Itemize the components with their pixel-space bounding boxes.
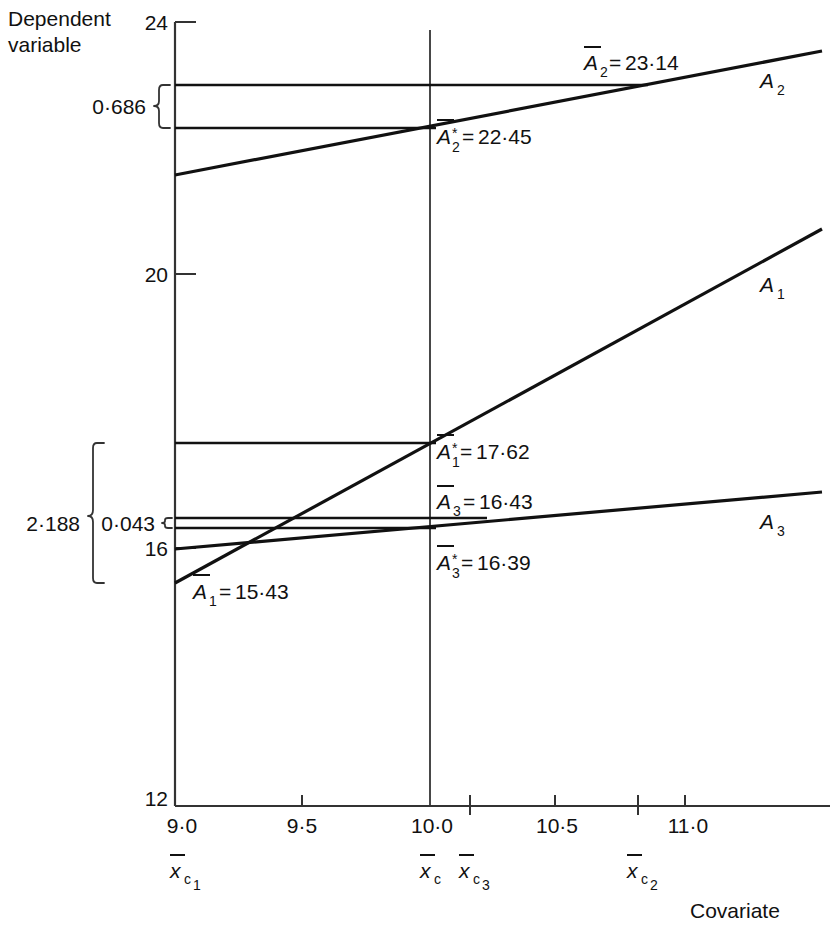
chart-svg: Dependent variable 24 20 16 12 9·0 9·5 1… (0, 0, 836, 928)
xbar-sub-index-3: 3 (482, 877, 490, 893)
series-label-a2-sub: 2 (777, 82, 785, 98)
a2-star-value: 22·45 (478, 125, 532, 148)
a3-star-equals: = (461, 551, 473, 574)
y-tick-label-24: 24 (145, 11, 169, 34)
a3-star-value: 16·39 (477, 551, 531, 574)
a1-bar-sub: 1 (209, 593, 217, 609)
x-tick-label-9-0: 9·0 (167, 814, 197, 837)
chart-background (0, 0, 836, 928)
xbar-letter-1: x (169, 859, 182, 882)
x-tick-label-11-0: 11·0 (668, 814, 708, 837)
xbar-sub-c-2: c (434, 871, 441, 887)
y-tick-label-12: 12 (145, 787, 168, 810)
a3-bar-equals: = (463, 490, 475, 513)
xbar-sub-c-1: c (184, 871, 191, 887)
a2-bar-sub: 2 (600, 64, 608, 80)
y-axis-title-line2: variable (8, 33, 82, 56)
a3-star-letter: A (435, 551, 451, 574)
xbar-letter-3: x (458, 859, 471, 882)
series-label-a3-letter: A (758, 510, 774, 533)
a2-star-letter: A (435, 125, 451, 148)
xbar-sub-c-3: c (473, 871, 480, 887)
a1-star-letter: A (435, 440, 451, 463)
series-label-a3-sub: 3 (777, 523, 785, 539)
x-tick-label-10-5: 10·5 (536, 814, 578, 837)
a3-bar-letter: A (435, 490, 451, 513)
x-axis-title: Covariate (690, 899, 780, 922)
a1-star-sub: 1 (452, 454, 460, 470)
xbar-letter-4: x (626, 859, 639, 882)
xbar-sub-index-1: 1 (193, 877, 201, 893)
y-axis-title-line1: Dependent (8, 7, 111, 30)
a1-bar-equals: = (219, 580, 231, 603)
y-tick-label-16: 16 (145, 537, 168, 560)
a3-star-sub: 3 (452, 565, 460, 581)
a3-bar-sub: 3 (453, 503, 461, 519)
brace-2188-label: 2·188 (26, 512, 80, 535)
xbar-letter-2: x (419, 859, 432, 882)
a2-star-sub: 2 (452, 139, 460, 155)
brace-0043-label: 0·043 (101, 512, 155, 535)
y-tick-label-20: 20 (145, 263, 168, 286)
x-tick-label-9-5: 9·5 (287, 814, 317, 837)
a1-bar-letter: A (191, 580, 207, 603)
xbar-sub-index-4: 2 (650, 877, 658, 893)
a1-star-value: 17·62 (476, 440, 530, 463)
x-tick-label-10-0: 10·0 (411, 814, 453, 837)
a2-bar-value: 23·14 (625, 51, 679, 74)
brace-0686-label: 0·686 (92, 95, 146, 118)
a3-bar-value: 16·43 (479, 490, 533, 513)
a2-bar-equals: = (609, 51, 621, 74)
a2-bar-letter: A (582, 51, 598, 74)
series-label-a1-sub: 1 (777, 286, 785, 302)
a1-star-equals: = (460, 440, 472, 463)
ancova-adjusted-means-figure: Dependent variable 24 20 16 12 9·0 9·5 1… (0, 0, 836, 928)
xbar-sub-c-4: c (641, 871, 648, 887)
series-label-a2-letter: A (758, 69, 774, 92)
a1-bar-value: 15·43 (235, 580, 289, 603)
series-label-a1-letter: A (758, 273, 774, 296)
a2-star-equals: = (462, 125, 474, 148)
